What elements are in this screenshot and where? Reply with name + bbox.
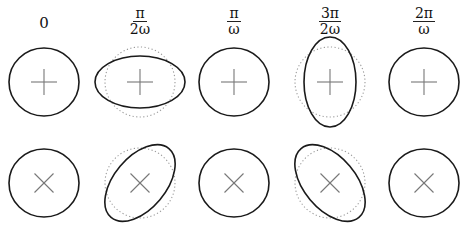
time-label-text: 0 bbox=[39, 14, 49, 32]
ring-plus-4 bbox=[389, 48, 459, 116]
ring-plus-0 bbox=[9, 48, 79, 116]
cross-icon bbox=[131, 174, 150, 193]
time-label: π2ω bbox=[110, 6, 170, 37]
time-label-denominator: 2ω bbox=[300, 22, 360, 37]
ring-cross-4 bbox=[389, 149, 459, 217]
ring-cross-0 bbox=[9, 149, 79, 217]
plus-icon bbox=[221, 69, 247, 95]
cross-icon bbox=[415, 174, 434, 193]
cross-icon bbox=[225, 174, 244, 193]
time-label: 2πω bbox=[394, 6, 454, 37]
time-label-numerator: π bbox=[133, 6, 146, 22]
time-label: 3π2ω bbox=[300, 6, 360, 37]
plus-icon bbox=[317, 69, 343, 95]
time-label: 0 bbox=[14, 14, 74, 32]
cross-icon bbox=[321, 174, 340, 193]
ring-plus-1 bbox=[95, 47, 185, 117]
time-label: πω bbox=[204, 6, 264, 37]
plus-icon bbox=[31, 69, 57, 95]
ring-cross-1 bbox=[91, 132, 189, 225]
plus-icon bbox=[411, 69, 437, 95]
cross-icon bbox=[35, 174, 54, 193]
time-label-numerator: 3π bbox=[319, 6, 341, 22]
ring-plus-3 bbox=[295, 37, 365, 127]
time-label-denominator: 2ω bbox=[110, 22, 170, 37]
ring-cross-3 bbox=[281, 132, 379, 225]
ring-plus-2 bbox=[199, 48, 269, 116]
time-label-numerator: π bbox=[227, 6, 240, 22]
ring-cross-2 bbox=[199, 149, 269, 217]
time-label-denominator: ω bbox=[204, 22, 264, 37]
time-label-denominator: ω bbox=[394, 22, 454, 37]
deformed-ring bbox=[91, 132, 189, 225]
time-label-numerator: 2π bbox=[413, 6, 435, 22]
deformed-ring bbox=[281, 132, 379, 225]
plus-icon bbox=[127, 69, 153, 95]
